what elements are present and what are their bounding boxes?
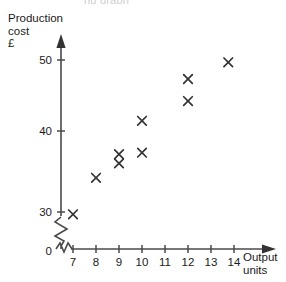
x-tick-label: 11 [155,256,175,268]
y-tick-label: 40 [28,125,52,137]
y-axis-arrow-icon [56,34,65,48]
plot-canvas [0,0,286,282]
x-tick-label: 10 [132,256,152,268]
x-axis-arrow-icon [262,244,276,253]
x-tick-label: 13 [201,256,221,268]
data-point-marker [115,159,124,168]
data-point-marker [224,58,233,67]
data-point-marker [92,174,101,183]
data-point-marker [138,117,147,126]
data-point-marker [69,210,78,219]
axes-group [55,34,276,254]
data-point-marker [184,75,193,84]
x-tick-label: 12 [178,256,198,268]
origin-label: 0 [28,245,52,257]
x-tick-label: 8 [86,256,106,268]
x-tick-label: 9 [109,256,129,268]
y-tick-label: 30 [28,206,52,218]
data-point-marker [138,148,147,157]
data-point-marker [115,150,124,159]
data-point-group [69,58,233,219]
y-axis-break-icon [55,217,67,246]
scatter-chart: ng graph Production cost £ Output units [0,0,286,282]
y-tick-label: 50 [28,54,52,66]
x-tick-label: 14 [224,256,244,268]
x-axis-break-icon [56,243,72,252]
x-tick-label: 7 [63,256,83,268]
data-point-marker [184,97,193,106]
